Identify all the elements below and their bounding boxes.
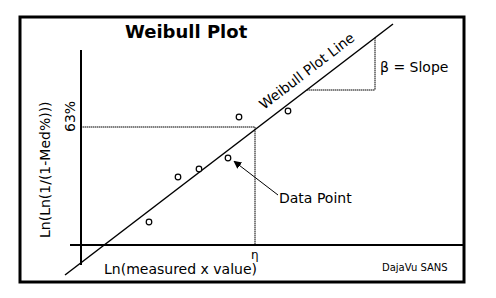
weibull-line-label: Weibull Plot Line — [256, 29, 357, 112]
weibull-diagram: Weibull Plot Ln(Ln(1/(1-Med%))) 63% Weib… — [0, 0, 496, 298]
y-axis-label: Ln(Ln(1/(1-Med%))) — [37, 101, 53, 238]
data-point — [175, 174, 181, 180]
weibull-plot-line — [65, 24, 393, 275]
font-note: DajaVu SANS — [382, 262, 448, 273]
data-points — [146, 108, 291, 225]
data-point-arrow-icon — [235, 162, 278, 195]
data-point — [285, 108, 291, 114]
data-point — [236, 114, 242, 120]
outer-frame — [20, 17, 464, 282]
data-point — [225, 155, 231, 161]
diagram-title: Weibull Plot — [125, 21, 248, 42]
slope-label: β = Slope — [380, 59, 448, 75]
x-axis-label: Ln(measured x value) — [104, 261, 257, 277]
data-point-label: Data Point — [279, 190, 352, 206]
data-point — [146, 219, 152, 225]
y-marker-label: 63% — [62, 101, 78, 132]
data-point — [196, 166, 202, 172]
x-marker-label: η — [251, 248, 259, 262]
